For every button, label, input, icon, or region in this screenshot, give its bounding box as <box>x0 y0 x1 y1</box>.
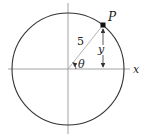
theta-label: θ <box>78 58 85 71</box>
radius-label: 5 <box>77 35 84 48</box>
angle-arc <box>73 63 76 69</box>
diagram-canvas: P 5 y θ x <box>0 0 149 138</box>
y-label: y <box>97 43 105 56</box>
point-p-label: P <box>107 10 117 24</box>
point-p-marker <box>101 23 106 28</box>
circle-diagram: P 5 y θ x <box>0 0 149 138</box>
x-axis-label: x <box>133 63 140 76</box>
